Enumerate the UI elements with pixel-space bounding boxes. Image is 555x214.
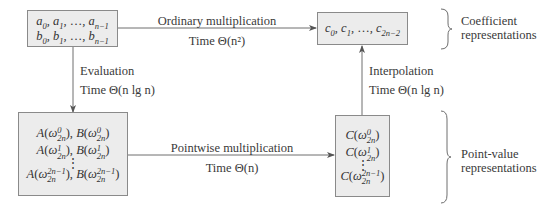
pointwise-multiplication-time: Time Θ(n) [206, 161, 259, 176]
b-coefficients-row: b0, b1, …, bn−1 [36, 29, 109, 44]
a-coefficients-row: a0, a1, …, an−1 [36, 14, 109, 29]
point-value-representations-label: Point-value representations [461, 147, 537, 175]
ordinary-multiplication-label: Ordinary multiplication [158, 14, 276, 29]
input-coefficients-box: a0, a1, …, an−1 b0, b1, …, bn−1 [27, 10, 118, 47]
c-point-value-row-0: C(ω02n) [345, 127, 379, 144]
output-coefficients-box: c0, c1, …, c2n−2 [317, 12, 408, 45]
output-point-values-box: C(ω02n) C(ω12n) ⋮ C(ω2n−12n) [335, 115, 390, 197]
interpolation-label: Interpolation [369, 64, 434, 79]
interpolation-time: Time Θ(n lg n) [369, 83, 444, 98]
c-coefficients-row: c0, c1, …, c2n−2 [325, 21, 400, 36]
input-point-values-box: A(ω02n), B(ω02n) A(ω12n), B(ω12n) ⋮ A(ω2… [18, 112, 128, 196]
pointwise-multiplication-label: Pointwise multiplication [171, 141, 294, 156]
coefficient-brace [441, 9, 452, 49]
coefficient-representations-label: Coefficient representations [461, 14, 537, 42]
evaluation-label: Evaluation [80, 64, 134, 79]
point-value-row-last: A(ω2n−12n), B(ω2n−12n) [27, 166, 120, 183]
evaluation-time: Time Θ(n lg n) [80, 83, 155, 98]
c-point-value-row-last: C(ω2n−12n) [340, 168, 384, 185]
point-value-row-0: A(ω02n), B(ω02n) [37, 125, 110, 142]
point-value-brace [441, 111, 451, 203]
ordinary-multiplication-time: Time Θ(n²) [189, 34, 245, 49]
